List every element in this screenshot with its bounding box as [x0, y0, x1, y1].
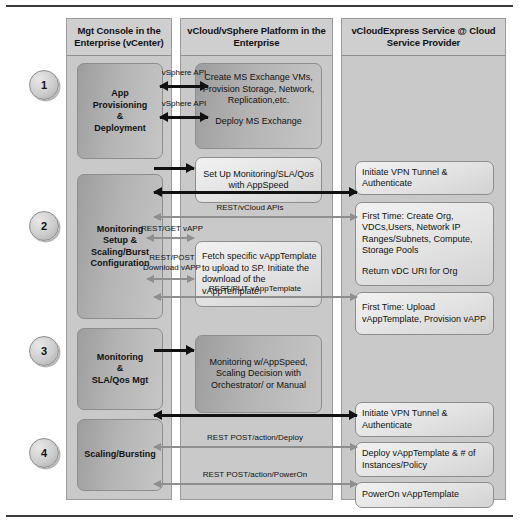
step-circle-4-label: 4 [41, 447, 47, 459]
step-circle-3-label: 3 [41, 345, 47, 357]
box-poweron-vapptemplate-text: PowerOn vAppTemplate [362, 489, 459, 501]
box-deploy-vapptemplate: Deploy vAppTemplate & # of Instances/Pol… [355, 442, 494, 477]
box-setup-monitoring-text: Set Up Monitoring/SLA/Qos with AppSpeed [200, 169, 317, 192]
box-monitoring-sla-l1: Monitoring [97, 352, 144, 364]
arrow-label-rest-post-download-vapp: REST/POST Download vAPP [136, 253, 208, 272]
step-circle-2: 2 [29, 211, 59, 241]
box-deploy-vapptemplate-text: Deploy vAppTemplate & # of Instances/Pol… [362, 448, 489, 471]
arrow-label-rest-post-deploy: REST POST/action/Deploy [180, 433, 330, 443]
arrow-label-vsphere-api-2: vSphere API [150, 99, 218, 109]
box-app-provisioning-l1: App [111, 88, 129, 100]
box-scaling-bursting-l1: Scaling/Bursting [84, 449, 156, 461]
arrow-label-rest-post-poweron: REST POST/action/PowerOn [180, 470, 330, 480]
column-header-vcloudexpress-service: vCloudExpress Service @ Cloud Service Pr… [342, 19, 505, 56]
column-vcloudexpress-service: vCloudExpress Service @ Cloud Service Pr… [341, 18, 506, 500]
box-app-provisioning-l3: & [117, 111, 124, 123]
box-app-provisioning-l4: Deployment [94, 123, 146, 135]
box-poweron-vapptemplate: PowerOn vAppTemplate [355, 482, 494, 508]
box-first-time-create-org-text: First Time: Create Org, VDCs,Users, Netw… [362, 211, 489, 257]
box-return-vdc-uri-text: Return vDC URI for Org [362, 266, 458, 278]
box-first-time-create-org: First Time: Create Org, VDCs,Users, Netw… [355, 202, 494, 286]
box-deploy-exchange-text: Deploy MS Exchange [215, 116, 302, 128]
box-monitoring-sla-l2: & [117, 363, 124, 375]
bottom-divider-rule [6, 515, 513, 517]
step-circle-1: 1 [29, 70, 59, 100]
box-scaling-bursting: Scaling/Bursting [77, 419, 163, 491]
arrow-label-rest-get-vapp: REST/GET vAPP [136, 224, 208, 234]
top-divider-rule [6, 5, 513, 7]
box-monitoring-setup-l2: Setup & [103, 235, 137, 247]
box-initiate-vpn-1-text: Initiate VPN Tunnel & Authenticate [362, 167, 489, 190]
box-setup-monitoring: Set Up Monitoring/SLA/Qos with AppSpeed [195, 157, 322, 203]
box-monitoring-setup: Monitoring Setup & Scaling/Burst Configu… [77, 174, 163, 319]
box-initiate-vpn-1: Initiate VPN Tunnel & Authenticate [355, 161, 494, 195]
step-circle-1-label: 1 [41, 79, 47, 91]
step-circle-3: 3 [29, 336, 59, 366]
box-monitoring-appspeed-text: Monitoring w/AppSpeed, Scaling Decision … [200, 357, 317, 392]
step-circle-4: 4 [29, 438, 59, 468]
box-monitoring-sla: Monitoring & SLA/Qos Mgt [77, 328, 163, 410]
box-first-time-upload: First Time: Upload vAppTemplate, Provisi… [355, 292, 494, 335]
box-monitoring-appspeed: Monitoring w/AppSpeed, Scaling Decision … [195, 335, 322, 413]
column-header-vcloud-platform: vCloud/vSphere Platform in the Enterpris… [181, 19, 332, 56]
box-initiate-vpn-2: Initiate VPN Tunnel & Authenticate [355, 402, 494, 437]
arrow-label-rest-vcloud-apis: REST/vCloud APIs [190, 203, 310, 213]
step-circle-2-label: 2 [41, 220, 47, 232]
box-app-provisioning-l2: Provisioning [93, 100, 148, 112]
arrow-label-vsphere-api-1: vSphere API [150, 68, 218, 78]
box-monitoring-sla-l3: SLA/Qos Mgt [92, 375, 149, 387]
box-first-time-upload-text: First Time: Upload vAppTemplate, Provisi… [362, 302, 489, 325]
column-header-mgt-console: Mgt Console in the Enterprise (vCenter) [67, 19, 171, 56]
box-initiate-vpn-2-text: Initiate VPN Tunnel & Authenticate [362, 408, 489, 431]
arrow-label-rest-put-vapptemplate: REST/PUT vAppTemplate [195, 284, 315, 294]
